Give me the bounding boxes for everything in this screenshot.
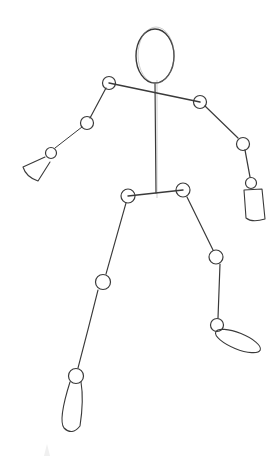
left-foot <box>62 382 82 432</box>
right-foot <box>213 325 263 358</box>
sketch-canvas <box>0 0 279 456</box>
stick-figure-sketch <box>0 0 279 456</box>
shoulders <box>103 77 207 109</box>
left-leg <box>69 203 127 384</box>
right-leg <box>187 197 224 332</box>
left-hand <box>23 157 50 181</box>
spine <box>155 80 157 198</box>
right-hand <box>244 189 265 221</box>
right-arm <box>205 106 257 189</box>
faint-mark <box>44 444 50 456</box>
left-arm <box>46 88 107 159</box>
head <box>136 27 174 83</box>
